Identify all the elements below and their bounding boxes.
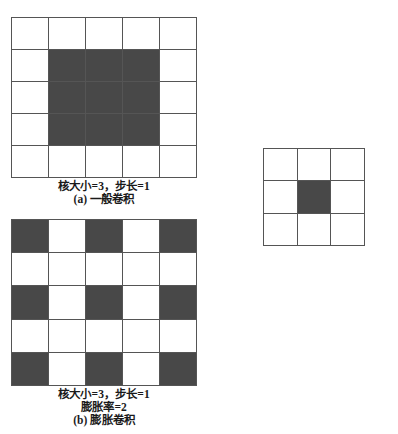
grid-cell-empty (12, 114, 48, 145)
grid-cell-empty (49, 220, 85, 252)
grid-cell-filled (49, 114, 85, 145)
grid-cell-empty (49, 320, 85, 352)
standard-convolution-grid (11, 17, 197, 178)
grid-cell-empty (160, 146, 196, 177)
grid-cell-empty (160, 253, 196, 285)
grid-cell-filled (49, 50, 85, 81)
grid-cell-empty (12, 18, 48, 49)
grid-cell-empty (298, 149, 331, 180)
grid-cell-empty (12, 253, 48, 285)
output-feature-map-grid (263, 148, 365, 246)
grid-cell-empty (123, 18, 159, 49)
grid-cell-empty (12, 146, 48, 177)
grid-cell-empty (123, 253, 159, 285)
grid-cell-empty (12, 82, 48, 113)
grid-cell-filled (86, 114, 122, 145)
grid-cell-empty (123, 320, 159, 352)
grid-cell-filled (160, 220, 196, 252)
standard-convolution-caption: 核大小=3，步长=1 (a) 一般卷积 (11, 180, 197, 206)
grid-cell-filled (86, 353, 122, 385)
grid-cell-empty (86, 146, 122, 177)
dilated-convolution-params: 核大小=3，步长=1 (11, 388, 197, 401)
grid-cell-empty (123, 146, 159, 177)
grid-cell-empty (160, 82, 196, 113)
grid-cell-empty (86, 253, 122, 285)
dilated-convolution-label: (b) 膨胀卷积 (11, 414, 197, 427)
grid-cell-empty (49, 253, 85, 285)
grid-cell-empty (160, 114, 196, 145)
grid-cell-empty (123, 286, 159, 318)
grid-cell-empty (160, 50, 196, 81)
grid-cell-filled (123, 114, 159, 145)
grid-cell-empty (49, 353, 85, 385)
grid-cell-filled (123, 50, 159, 81)
dilated-convolution-caption: 核大小=3，步长=1 膨胀率=2 (b) 膨胀卷积 (11, 388, 197, 427)
grid-cell-filled (86, 220, 122, 252)
grid-cell-filled (160, 286, 196, 318)
dilated-convolution-grid (11, 219, 197, 386)
standard-convolution-label: (a) 一般卷积 (11, 193, 197, 206)
grid-cell-empty (298, 214, 331, 245)
grid-cell-empty (331, 214, 364, 245)
grid-cell-empty (12, 50, 48, 81)
grid-cell-empty (264, 181, 297, 212)
grid-cell-filled (86, 286, 122, 318)
grid-cell-empty (49, 286, 85, 318)
grid-cell-filled (298, 181, 331, 212)
convolution-comparison-figure: 核大小=3，步长=1 (a) 一般卷积 核大小=3，步长=1 膨胀率=2 (b)… (0, 0, 398, 434)
grid-cell-filled (86, 50, 122, 81)
grid-cell-filled (86, 82, 122, 113)
grid-cell-empty (264, 214, 297, 245)
grid-cell-empty (12, 320, 48, 352)
grid-cell-filled (12, 220, 48, 252)
dilated-convolution-dilation-rate: 膨胀率=2 (11, 401, 197, 414)
standard-convolution-params: 核大小=3，步长=1 (11, 180, 197, 193)
grid-cell-empty (123, 220, 159, 252)
grid-cell-filled (12, 353, 48, 385)
grid-cell-empty (123, 353, 159, 385)
grid-cell-filled (160, 353, 196, 385)
grid-cell-empty (86, 18, 122, 49)
grid-cell-empty (160, 18, 196, 49)
grid-cell-filled (12, 286, 48, 318)
grid-cell-empty (49, 146, 85, 177)
grid-cell-empty (331, 181, 364, 212)
grid-cell-filled (49, 82, 85, 113)
grid-cell-empty (331, 149, 364, 180)
grid-cell-empty (160, 320, 196, 352)
grid-cell-empty (49, 18, 85, 49)
grid-cell-filled (123, 82, 159, 113)
grid-cell-empty (86, 320, 122, 352)
grid-cell-empty (264, 149, 297, 180)
